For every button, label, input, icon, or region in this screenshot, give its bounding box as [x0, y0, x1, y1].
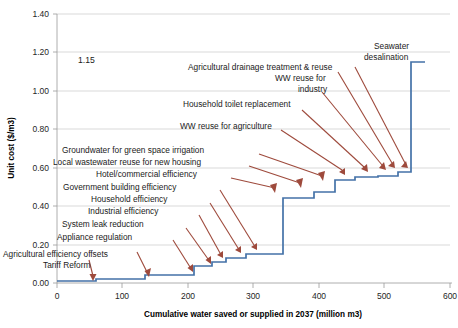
x-tick-label: 400: [312, 291, 326, 301]
y-tick-label: 0.40: [32, 201, 49, 211]
y-tick-label: 1.00: [32, 86, 49, 96]
callout-label-local-wastewater-reuse: Local wastewater reuse for new housing: [53, 157, 201, 167]
callout-label-tariff-reform: Tariff Reform: [43, 260, 90, 270]
y-axis-tick-labels: 1.40 1.20 1.00 0.80 0.60 0.40 0.20 0.00: [32, 9, 49, 288]
callout-label-hotel-commercial-efficiency: Hotel/commercial efficiency: [96, 169, 198, 179]
callout-label-ww-reuse-industry-line2: industry: [298, 84, 328, 94]
x-tick-label: 0: [55, 291, 60, 301]
callout-label-groundwater-green-space: Groundwater for green space irrigation: [62, 145, 204, 155]
callout-label-agricultural-efficiency-offsets: Agricultural efficiency offsets: [3, 249, 108, 259]
x-tick-label: 600: [443, 291, 457, 301]
y-tick-label: 0.60: [32, 163, 49, 173]
callout-label-ww-reuse-industry-line1: WW reuse for: [275, 73, 326, 83]
callout-label-ww-reuse-agriculture: WW reuse for agriculture: [180, 121, 272, 131]
y-tick-label: 0.00: [32, 278, 49, 288]
x-tick-label: 500: [377, 291, 391, 301]
callout-label-system-leak-reduction: System leak reduction: [62, 219, 144, 229]
cost-curve-chart: 1.40 1.20 1.00 0.80 0.60 0.40 0.20 0.00 …: [0, 0, 458, 328]
value-annotation-1-15: 1.15: [78, 55, 95, 65]
y-tick-label: 1.40: [32, 9, 49, 19]
callout-label-government-building-efficiency: Government building efficiency: [63, 182, 177, 192]
y-axis-title: Unit cost ($/m3): [7, 117, 16, 179]
y-axis-ticks: [53, 14, 57, 283]
y-tick-label: 1.20: [32, 47, 49, 57]
x-axis-ticks: [57, 283, 450, 288]
chart-plot-area: 1.40 1.20 1.00 0.80 0.60 0.40 0.20 0.00 …: [0, 0, 458, 328]
x-axis-title: Cumulative water saved or supplied in 20…: [144, 310, 362, 319]
y-tick-label: 0.80: [32, 124, 49, 134]
callout-label-household-efficiency: Household efficiency: [91, 194, 168, 204]
callout-label-appliance-regulation: Appliance regulation: [57, 232, 133, 242]
callout-label-seawater-desalination-line1: Seawater: [374, 41, 409, 51]
callout-label-industrial-efficiency: Industrial efficiency: [88, 206, 159, 216]
x-tick-label: 300: [246, 291, 260, 301]
x-axis-tick-labels: 0 100 200 300 400 500 600: [55, 291, 458, 301]
x-tick-label: 200: [181, 291, 195, 301]
x-tick-label: 100: [115, 291, 129, 301]
callout-label-agricultural-drainage-reuse: Agricultural drainage treatment & reuse: [188, 62, 333, 72]
callout-label-seawater-desalination-line2: desalination: [364, 52, 409, 62]
callout-label-household-toilet-replacement: Household toilet replacement: [183, 99, 291, 109]
